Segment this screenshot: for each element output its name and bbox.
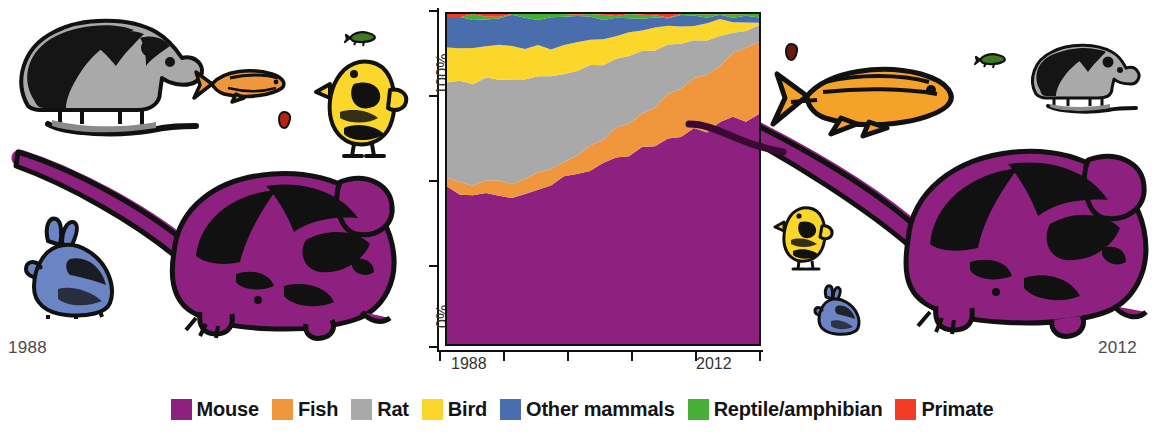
legend-label: Fish xyxy=(298,398,338,421)
legend-item-bird[interactable]: Bird xyxy=(422,398,487,421)
chart-legend: MouseFishRatBirdOther mammalsReptile/amp… xyxy=(0,389,1164,429)
legend-swatch-fish xyxy=(272,399,293,420)
x-axis-label-1988: 1988 xyxy=(451,355,487,373)
illustration-reptile-2012 xyxy=(975,50,1009,68)
x-axis-label-2012: 2012 xyxy=(696,355,732,373)
illustration-reptile-1988 xyxy=(345,28,379,46)
corner-year-left: 1988 xyxy=(8,338,47,358)
legend-swatch-other-mammals xyxy=(500,399,521,420)
legend-swatch-primate xyxy=(895,399,916,420)
legend-label: Bird xyxy=(448,398,487,421)
y-axis-tick xyxy=(429,95,438,97)
legend-item-primate[interactable]: Primate xyxy=(895,398,993,421)
illustration-fish-1988 xyxy=(190,62,290,108)
illustration-rat-1988 xyxy=(10,8,215,138)
illustration-primate-1988 xyxy=(277,110,293,130)
x-axis-tick xyxy=(759,352,761,361)
y-axis-tick xyxy=(429,10,438,12)
y-axis-tick xyxy=(429,346,438,348)
legend-item-other-mammals[interactable]: Other mammals xyxy=(500,398,675,421)
legend-label: Reptile/amphibian xyxy=(714,398,883,421)
illustration-mouse-2012 xyxy=(740,110,1160,345)
legend-label: Primate xyxy=(921,398,993,421)
legend-item-rat[interactable]: Rat xyxy=(351,398,409,421)
y-axis-tick xyxy=(429,180,438,182)
stacked-area-chart: 100% 0% 1988 2012 xyxy=(415,0,775,378)
legend-label: Rat xyxy=(377,398,409,421)
y-axis-tick xyxy=(429,265,438,267)
legend-item-mouse[interactable]: Mouse xyxy=(171,398,259,421)
legend-swatch-mouse xyxy=(171,399,192,420)
legend-label: Other mammals xyxy=(526,398,675,421)
x-axis-tick xyxy=(439,352,441,361)
legend-swatch-rat xyxy=(351,399,372,420)
legend-item-reptile-amphibian[interactable]: Reptile/amphibian xyxy=(688,398,883,421)
legend-swatch-reptile-amphibian xyxy=(688,399,709,420)
x-axis-line xyxy=(437,350,763,352)
illustration-rat-2012 xyxy=(1026,38,1146,114)
legend-item-fish[interactable]: Fish xyxy=(272,398,338,421)
legend-swatch-bird xyxy=(422,399,443,420)
corner-year-right: 2012 xyxy=(1098,338,1137,358)
callout-pointer xyxy=(665,100,795,180)
x-axis-tick xyxy=(631,352,633,361)
legend-label: Mouse xyxy=(197,398,259,421)
infographic-canvas: 1988 xyxy=(0,0,1164,441)
illustration-mouse-1988 xyxy=(10,140,410,345)
x-axis-tick xyxy=(503,352,505,361)
x-axis-tick xyxy=(567,352,569,361)
